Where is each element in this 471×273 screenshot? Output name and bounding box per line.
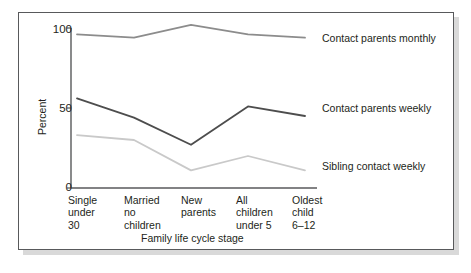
x-category-0: Single under 30 [68, 194, 97, 231]
y-axis-label: Percent [36, 99, 48, 135]
x-axis-title: Family life cycle stage [141, 232, 244, 244]
series-label-monthly: Contact parents monthly [322, 32, 436, 44]
y-tick-0: 0 [42, 181, 72, 195]
x-category-1: Married no children [124, 194, 161, 231]
series-label-sibling: Sibling contact weekly [322, 160, 425, 172]
y-tick-100: 100 [42, 23, 72, 37]
x-category-2: New parents [181, 194, 216, 219]
series-label-weekly: Contact parents weekly [322, 102, 431, 114]
x-category-4: Oldest child 6–12 [292, 194, 322, 231]
x-category-3: All children under 5 [236, 194, 273, 231]
chart-figure: 100 50 0 Percent Single under 30 Married… [0, 0, 471, 273]
